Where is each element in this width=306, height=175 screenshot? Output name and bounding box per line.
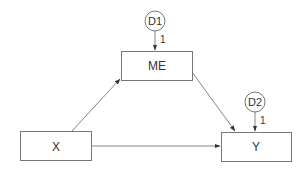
edge-d1-me-label: 1: [160, 34, 166, 45]
edge-x-me: [72, 79, 120, 131]
edge-d2-y-label: 1: [260, 115, 266, 126]
edge-me-y: [192, 72, 235, 131]
path-diagram: X ME Y D1 D2 1 1: [0, 0, 306, 175]
node-d1: D1: [145, 11, 165, 31]
node-x-label: X: [52, 140, 60, 154]
node-me: ME: [122, 52, 193, 81]
node-x: X: [21, 132, 92, 161]
node-y: Y: [222, 133, 292, 162]
node-d1-label: D1: [148, 15, 162, 27]
node-d2: D2: [245, 92, 265, 112]
node-me-label: ME: [148, 59, 166, 73]
node-d2-label: D2: [248, 96, 262, 108]
node-y-label: Y: [252, 140, 260, 154]
